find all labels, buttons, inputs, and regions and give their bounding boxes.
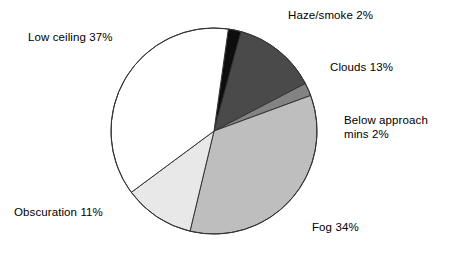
- slice-label-obscuration: Obscuration 11%: [14, 206, 103, 220]
- slice-label-clouds: Clouds 13%: [330, 61, 393, 75]
- slice-label-haze-smoke: Haze/smoke 2%: [288, 9, 373, 23]
- slice-label-below-approach-mins-line2: mins 2%: [344, 128, 389, 140]
- pie-chart: Haze/smoke 2% Clouds 13% Below approachm…: [0, 0, 450, 256]
- slice-label-below-approach-mins: Below approachmins 2%: [344, 114, 428, 141]
- pie-slice-group: [111, 28, 317, 234]
- slice-label-fog: Fog 34%: [312, 221, 359, 235]
- slice-label-low-ceiling: Low ceiling 37%: [28, 31, 113, 45]
- slice-label-below-approach-mins-line1: Below approach: [344, 114, 428, 126]
